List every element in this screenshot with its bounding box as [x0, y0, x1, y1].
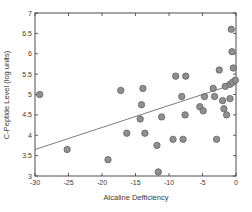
x-tick-label: -30	[30, 179, 40, 186]
data-point	[183, 73, 189, 79]
y-axis-label: C-Peptide Level (log units)	[2, 50, 11, 139]
y-tick-label: 5	[28, 91, 32, 98]
data-point	[221, 106, 227, 112]
data-point	[213, 136, 219, 142]
data-point	[211, 93, 217, 99]
data-point	[201, 93, 207, 99]
data-point	[64, 146, 70, 152]
x-tick-label: 0	[234, 179, 238, 186]
data-point	[179, 93, 185, 99]
x-tick-label: -10	[164, 179, 174, 186]
data-point	[200, 108, 206, 114]
data-point	[118, 87, 124, 93]
chart-canvas: -30-25-20-15-10-5033.544.555.566.57 C-Pe…	[0, 0, 252, 212]
x-tick-label: -25	[63, 179, 73, 186]
x-tick-label: -20	[97, 179, 107, 186]
y-tick-label: 7	[28, 10, 32, 17]
data-point	[154, 142, 160, 148]
y-tick-label: 5.5	[22, 71, 32, 78]
data-point	[158, 114, 164, 120]
data-point	[227, 95, 233, 101]
data-point	[36, 91, 42, 97]
data-point	[180, 136, 186, 142]
data-point	[138, 101, 144, 107]
data-point	[230, 65, 236, 71]
scatter-plot-figure: -30-25-20-15-10-5033.544.555.566.57 C-Pe…	[0, 0, 252, 212]
data-point	[105, 157, 111, 163]
y-tick-label: 6	[28, 50, 32, 57]
data-point	[170, 136, 176, 142]
data-point	[182, 112, 188, 118]
y-tick-label: 4.5	[22, 111, 32, 118]
y-tick-label: 6.5	[22, 30, 32, 37]
data-point	[228, 26, 234, 32]
data-point	[219, 97, 225, 103]
y-tick-label: 3.5	[22, 152, 32, 159]
data-point	[232, 77, 238, 83]
y-tick-label: 3	[28, 173, 32, 180]
x-axis-label: Alcaline Defficiency	[104, 193, 169, 202]
data-point	[229, 49, 235, 55]
x-tick-label: -15	[130, 179, 140, 186]
data-point	[155, 169, 161, 175]
data-point	[223, 112, 229, 118]
data-point	[216, 67, 222, 73]
data-point	[124, 130, 130, 136]
data-point	[137, 116, 143, 122]
data-point	[142, 130, 148, 136]
data-point	[210, 85, 216, 91]
data-point	[173, 73, 179, 79]
plot-layers: -30-25-20-15-10-5033.544.555.566.57	[22, 10, 238, 187]
x-tick-label: -5	[199, 179, 205, 186]
y-tick-label: 4	[28, 132, 32, 139]
data-point	[140, 85, 146, 91]
